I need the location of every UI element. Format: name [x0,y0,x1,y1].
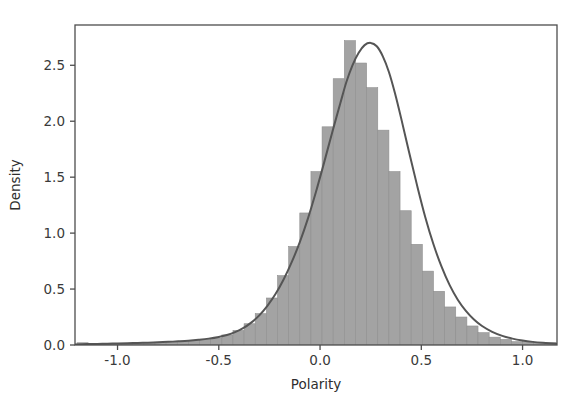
y-axis-title: Density [7,159,23,210]
histogram-bar [378,130,389,345]
x-tick-label: -1.0 [104,352,130,368]
histogram-bar [478,333,489,345]
y-tick-label: 1.0 [44,225,65,241]
histogram-bar [411,244,422,345]
x-axis: -1.0-0.50.00.51.0 [104,345,533,368]
y-tick-label: 1.5 [44,169,65,185]
y-tick-label: 0.0 [44,337,65,353]
x-tick-label: 1.0 [512,352,533,368]
histogram-bar [211,338,222,345]
histogram-bar [300,213,311,345]
histogram-bar [445,307,456,345]
y-tick-label: 2.5 [44,57,65,73]
histogram-bar [333,79,344,345]
histogram-bar [433,291,444,345]
x-tick-label: 0.5 [411,352,432,368]
histogram-bar [500,339,511,345]
histogram-bar [311,172,322,345]
histogram-bar [389,172,400,345]
y-tick-label: 2.0 [44,113,65,129]
histogram-bar [355,63,366,345]
histogram-bar [367,88,378,345]
histogram-bar [456,317,467,345]
x-tick-label: -0.5 [206,352,232,368]
histogram-bar [467,326,478,345]
histogram-bar [422,271,433,345]
x-axis-title: Polarity [291,376,342,392]
histogram-bar [322,127,333,345]
y-tick-label: 0.5 [44,281,65,297]
histogram-bar [400,211,411,345]
y-axis: 0.00.51.01.52.02.5 [44,57,75,353]
histogram-bar [289,247,300,345]
x-tick-label: 0.0 [309,352,330,368]
figure-canvas: -1.0-0.50.00.51.00.00.51.01.52.02.5Polar… [0,0,576,409]
density-plot: -1.0-0.50.00.51.00.00.51.01.52.02.5Polar… [0,0,576,409]
histogram-bar [489,337,500,345]
